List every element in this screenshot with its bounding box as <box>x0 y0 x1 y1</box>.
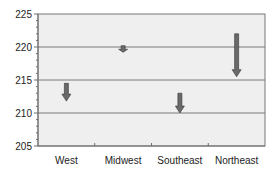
x-tick-label: Southeast <box>157 155 202 166</box>
chart: 205210215220225 WestMidwestSoutheastNort… <box>0 0 278 176</box>
y-tick-label: 215 <box>15 75 32 86</box>
x-tick-label: West <box>55 155 78 166</box>
x-tick-label: Northeast <box>215 155 259 166</box>
x-tick-label: Midwest <box>105 155 142 166</box>
y-tick-label: 225 <box>15 9 32 20</box>
y-axis: 205210215220225 <box>15 9 38 152</box>
y-tick-label: 220 <box>15 42 32 53</box>
y-tick-label: 205 <box>15 141 32 152</box>
x-axis: WestMidwestSoutheastNortheast <box>38 143 265 166</box>
y-tick-label: 210 <box>15 108 32 119</box>
